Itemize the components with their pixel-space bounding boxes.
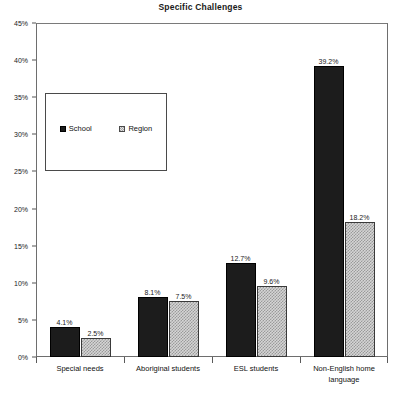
bar-school[interactable] [314, 66, 344, 357]
bar-school[interactable] [138, 297, 168, 357]
y-axis-tick-label: 25% [14, 168, 28, 175]
legend-entry-school[interactable]: School [60, 124, 92, 133]
bars-layer: 4.1%2.5%8.1%7.5%12.7%9.6%39.2%18.2% [36, 23, 388, 357]
y-axis-tick-label: 20% [14, 205, 28, 212]
bar-region[interactable] [81, 338, 111, 357]
x-axis-separator-tick [36, 357, 37, 363]
bar-group: 8.1%7.5% [124, 23, 212, 357]
y-axis-tick-label: 30% [14, 131, 28, 138]
legend-entry-region[interactable]: Region [119, 124, 152, 133]
x-axis-category-label: ESL students [212, 364, 300, 375]
bar-value-label: 12.7% [222, 255, 260, 262]
legend: SchoolRegion [45, 93, 167, 171]
bar-school[interactable] [50, 327, 80, 357]
x-axis-category-label: Aboriginal students [124, 364, 212, 375]
legend-items: SchoolRegion [46, 124, 166, 133]
y-axis-tick-label: 10% [14, 279, 28, 286]
x-axis-separator-tick [212, 357, 213, 363]
x-axis-separator-tick [387, 357, 388, 363]
bar-value-label: 18.2% [341, 214, 379, 221]
bar-region[interactable] [257, 286, 287, 357]
bar-region[interactable] [169, 301, 199, 357]
legend-label: Region [128, 124, 152, 133]
bar-group: 12.7%9.6% [212, 23, 300, 357]
y-axis-tick-label: 5% [18, 316, 28, 323]
legend-label: School [69, 124, 92, 133]
y-axis-tick-label: 15% [14, 242, 28, 249]
y-axis-tick-label: 40% [14, 57, 28, 64]
bar-value-label: 2.5% [77, 330, 115, 337]
x-axis: Special needsAboriginal studentsESL stud… [36, 364, 388, 398]
chart-title: Specific Challenges [0, 2, 401, 12]
bar-chart: Specific Challenges 0%5%10%15%20%25%30%3… [0, 0, 401, 400]
y-axis-tick-label: 0% [18, 354, 28, 361]
bar-value-label: 9.6% [253, 278, 291, 285]
x-axis-separator-tick [300, 357, 301, 363]
bar-group: 39.2%18.2% [300, 23, 388, 357]
x-axis-ticks [36, 357, 388, 363]
bar-value-label: 4.1% [46, 319, 84, 326]
y-axis-tick-label: 45% [14, 20, 28, 27]
hatched-gray-square-icon [119, 126, 125, 132]
bar-school[interactable] [226, 263, 256, 357]
bar-group: 4.1%2.5% [36, 23, 124, 357]
y-axis: 0%5%10%15%20%25%30%35%40%45% [0, 23, 33, 357]
x-axis-category-label: Non-English home language [300, 364, 388, 385]
bar-value-label: 7.5% [165, 293, 203, 300]
y-axis-tick-label: 35% [14, 94, 28, 101]
bar-region[interactable] [345, 222, 375, 357]
x-axis-category-label: Special needs [36, 364, 124, 375]
bar-value-label: 39.2% [310, 58, 348, 65]
solid-black-square-icon [60, 126, 66, 132]
x-axis-separator-tick [124, 357, 125, 363]
